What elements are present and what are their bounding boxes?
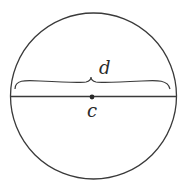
diameter-label: d <box>99 57 111 78</box>
diameter-brace <box>15 77 170 89</box>
center-label: c <box>87 100 97 121</box>
center-point <box>90 95 95 100</box>
circle-diagram: d c <box>0 0 186 193</box>
